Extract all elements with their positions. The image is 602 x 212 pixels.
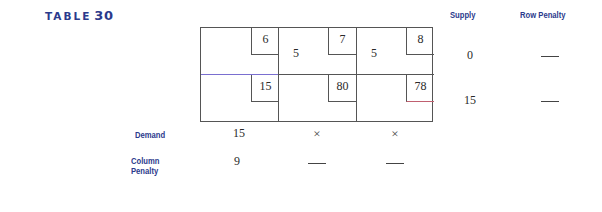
cell-r2-c2: 80 [278, 74, 356, 121]
cell-r1-c2: 7 5 [278, 28, 356, 75]
cost-box: 8 [406, 28, 434, 55]
cell-r2-c1: 15 [201, 74, 279, 121]
allocation: 5 [293, 46, 299, 61]
supply-row2: 15 [455, 93, 485, 108]
column-penalty-label: Column Penalty [131, 156, 159, 176]
column-penalty-label-line2: Penalty [131, 166, 159, 176]
supply-header: Supply [450, 10, 476, 20]
table-caption-label: TABLE [45, 10, 91, 22]
cost-box: 80 [328, 75, 356, 102]
column-penalty-label-line1: Column [131, 156, 159, 166]
transportation-grid: 6 7 5 8 5 15 80 78 [200, 27, 433, 122]
row-penalty-header: Row Penalty [520, 10, 565, 20]
row-penalty-row1-dash [541, 56, 559, 57]
cost-box: 78 [406, 75, 434, 102]
cell-r1-c1: 6 [201, 28, 279, 75]
cell-r2-c3: 78 [356, 74, 434, 121]
row-penalty-row2-dash [541, 101, 559, 102]
allocation: 5 [371, 46, 377, 61]
demand-col1: 15 [224, 126, 254, 141]
cost-box: 15 [251, 75, 279, 102]
column-penalty-col2-dash [308, 163, 326, 164]
demand-label: Demand [135, 130, 165, 140]
demand-col2-x: × [307, 126, 327, 142]
cost-box: 6 [251, 28, 279, 55]
column-penalty-col1: 9 [222, 154, 252, 169]
cost-box: 7 [328, 28, 356, 55]
supply-row1: 0 [455, 48, 485, 63]
cell-r1-c3: 8 5 [356, 28, 434, 75]
table-caption: TABLE30 [45, 8, 113, 23]
table-caption-number: 30 [94, 8, 113, 23]
demand-col3-x: × [385, 126, 405, 142]
column-penalty-col3-dash [386, 163, 404, 164]
